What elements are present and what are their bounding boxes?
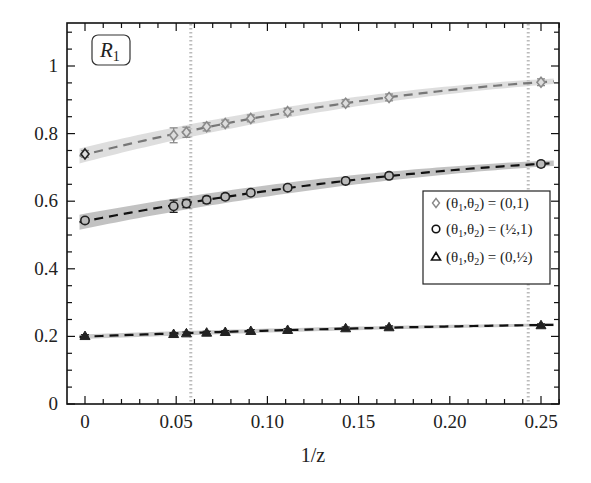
circle-marker [221,193,229,201]
data-point [342,98,350,108]
data-point [284,107,292,117]
data-point [536,320,546,329]
panel-label: R1 [92,35,130,65]
data-point [181,328,191,337]
x-tick-label: 0.20 [433,411,466,432]
y-tick-label: 0.6 [34,190,58,211]
x-axis-label: 1/z [301,444,326,466]
y-tick-labels: 00.20.40.60.81 [34,55,58,414]
circle-marker [537,160,545,168]
data-point [246,326,256,335]
data-point [283,325,293,334]
data-point [247,189,255,197]
y-tick-label: 0.2 [34,325,58,346]
x-tick-label: 0.15 [342,411,375,432]
y-tick-label: 0 [49,393,59,414]
data-point [221,193,229,201]
data-point [283,183,291,191]
x-tick-label: 0.25 [524,411,557,432]
data-point [81,149,89,159]
fit-band [80,79,554,164]
data-point [341,323,351,332]
data-point [247,113,255,123]
chart: 00.050.100.150.200.25 00.20.40.60.81 1/z… [0,0,591,483]
circle-marker [169,202,177,210]
data-point [202,196,210,204]
y-tick-label: 1 [49,55,59,76]
circle-marker [202,196,210,204]
circle-marker [385,172,393,180]
data-point [203,122,211,132]
data-point [182,199,190,207]
data-point [80,331,90,340]
x-tick-label: 0 [80,411,90,432]
data-point [220,327,230,336]
circle-marker [283,183,291,191]
data-point [81,216,89,224]
data-point [384,322,394,331]
circle-marker [81,216,89,224]
data-point [169,329,179,338]
data-point [385,172,393,180]
data-point [385,92,393,102]
data-point [341,177,349,185]
circle-marker [182,199,190,207]
y-tick-label: 0.4 [34,258,58,279]
legend: (θ1,θ2) = (0,1)(θ1,θ2) = (½,1)(θ1,θ2) = … [423,191,550,284]
data-point [221,118,229,128]
circle-marker [247,189,255,197]
legend-circle-icon [432,225,440,233]
circle-marker [341,177,349,185]
data-point [202,328,212,337]
data-point [537,160,545,168]
x-tick-label: 0.10 [251,411,284,432]
data-point [537,77,545,87]
x-tick-label: 0.05 [160,411,193,432]
fit-band [80,323,554,339]
x-tick-labels: 00.050.100.150.200.25 [80,411,557,432]
y-tick-label: 0.8 [34,123,58,144]
